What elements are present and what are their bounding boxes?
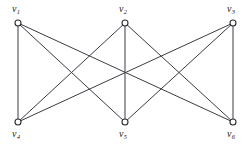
node-v4[interactable]: [15, 119, 21, 125]
node-label-sub-v4: 4: [17, 133, 20, 140]
node-label-v3: v3: [227, 4, 235, 14]
graph-figure: v1v2v3v4v5v6: [0, 0, 251, 145]
node-label-sub-v3: 3: [232, 8, 235, 15]
node-label-v6: v6: [227, 129, 235, 139]
node-label-main-v2: v: [119, 3, 123, 14]
node-label-main-v4: v: [12, 128, 16, 139]
edges-group: [18, 23, 233, 122]
node-label-main-v3: v: [227, 3, 231, 14]
node-label-main-v6: v: [227, 128, 231, 139]
node-v2[interactable]: [122, 20, 128, 26]
node-label-v2: v2: [119, 4, 127, 14]
node-label-v1: v1: [12, 4, 20, 14]
graph-canvas: [0, 0, 251, 145]
node-label-sub-v5: 5: [124, 133, 127, 140]
node-label-v4: v4: [12, 129, 20, 139]
node-label-sub-v2: 2: [124, 8, 127, 15]
node-label-sub-v1: 1: [17, 8, 20, 15]
node-v5[interactable]: [122, 119, 128, 125]
node-label-sub-v6: 6: [232, 133, 235, 140]
node-label-main-v5: v: [119, 128, 123, 139]
node-v6[interactable]: [230, 119, 236, 125]
node-label-v5: v5: [119, 129, 127, 139]
node-label-main-v1: v: [12, 3, 16, 14]
node-v3[interactable]: [230, 20, 236, 26]
node-v1[interactable]: [15, 20, 21, 26]
